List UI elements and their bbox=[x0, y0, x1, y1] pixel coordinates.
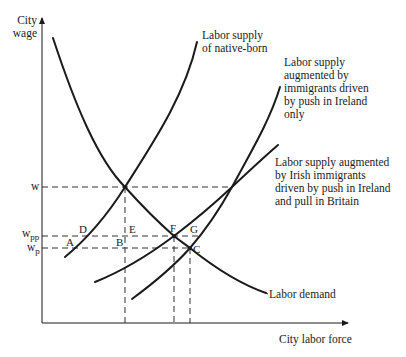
point-label-b: B bbox=[116, 236, 123, 248]
point-c-dot bbox=[188, 246, 192, 250]
point-label-g: G bbox=[190, 223, 198, 235]
wp-sub: p bbox=[35, 246, 40, 256]
push-only-supply-curve bbox=[132, 87, 280, 299]
push-only-label-line1: Labor supply bbox=[284, 56, 369, 69]
push-pull-supply-curve bbox=[95, 145, 278, 282]
wage-w-label: w bbox=[31, 180, 39, 193]
point-label-e: E bbox=[129, 223, 136, 235]
push-pull-label-line2: by Irish immigrants bbox=[275, 169, 391, 182]
point-label-d: D bbox=[79, 223, 87, 235]
labor-demand-label: Labor demand bbox=[269, 288, 336, 301]
native-supply-label-line2: of native-born bbox=[202, 42, 267, 55]
push-only-label-line3: immigrants driven bbox=[284, 82, 369, 95]
push-pull-label-line3: driven by push in Ireland bbox=[275, 182, 391, 195]
point-label-a: A bbox=[66, 236, 74, 248]
native-supply-label: Labor supply of native-born bbox=[202, 29, 267, 55]
point-native-eq bbox=[123, 185, 127, 189]
point-f-dot bbox=[172, 234, 176, 238]
point-label-f: F bbox=[170, 222, 176, 234]
push-only-supply-label: Labor supply augmented by immigrants dri… bbox=[284, 56, 369, 121]
y-axis-label: City wage bbox=[8, 14, 37, 40]
labor-demand-curve bbox=[53, 38, 266, 293]
push-only-label-line2: augmented by bbox=[284, 69, 369, 82]
y-axis-label-line1: City bbox=[8, 14, 37, 27]
point-label-c: C bbox=[193, 243, 200, 255]
push-only-label-line4: by push in Ireland bbox=[284, 95, 369, 108]
push-pull-label-line1: Labor supply augmented bbox=[275, 156, 391, 169]
native-supply-label-line1: Labor supply bbox=[202, 29, 267, 42]
wage-wpp-label: wpp bbox=[22, 227, 39, 241]
y-axis-label-line2: wage bbox=[8, 27, 37, 40]
push-pull-supply-label: Labor supply augmented by Irish immigran… bbox=[275, 156, 391, 208]
push-pull-label-line4: and pull in Britain bbox=[275, 195, 391, 208]
x-axis-label: City labor force bbox=[279, 333, 352, 346]
wage-wp-label: wp bbox=[27, 241, 40, 255]
push-only-label-line5: only bbox=[284, 108, 369, 121]
